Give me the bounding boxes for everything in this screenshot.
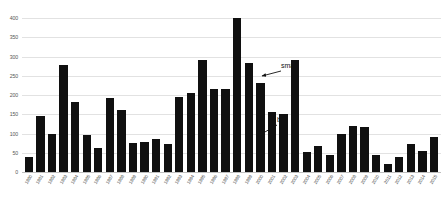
bar (48, 134, 56, 173)
bar-slot (35, 18, 47, 172)
x-slot: 2001 (266, 173, 278, 199)
bar (175, 97, 183, 172)
bar (372, 155, 380, 172)
x-axis-tick-label: 1989 (128, 174, 137, 185)
x-slot: 2011 (382, 173, 394, 199)
x-slot: 1994 (185, 173, 197, 199)
bar-slot (116, 18, 128, 172)
y-axis-tick-label: 200 (10, 92, 18, 98)
bar (395, 157, 403, 172)
y-axis-tick-label: 0 (15, 169, 18, 175)
y-axis-tick-label: 100 (10, 131, 18, 137)
bar-slot (139, 18, 151, 172)
bar-slot (69, 18, 81, 172)
bar-slot (428, 18, 440, 172)
bar (303, 152, 311, 172)
bar-slot (266, 18, 278, 172)
bar-slot (81, 18, 93, 172)
bar (360, 127, 368, 172)
x-axis-tick-label: 2013 (406, 174, 415, 185)
bar (326, 155, 334, 172)
x-slot: 2014 (417, 173, 429, 199)
y-axis: 050100150200250300350400 (0, 0, 22, 199)
x-slot: 1988 (116, 173, 128, 199)
bar-slot (162, 18, 174, 172)
x-slot: 2005 (312, 173, 324, 199)
x-axis-tick-label: 1985 (81, 174, 90, 185)
bar-slot (46, 18, 58, 172)
bar-slot (23, 18, 35, 172)
x-axis-tick-label: 1988 (116, 174, 125, 185)
x-slot: 1980 (23, 173, 35, 199)
x-axis-tick-label: 2010 (371, 174, 380, 185)
x-axis-tick-label: 1999 (244, 174, 253, 185)
bar-slot (359, 18, 371, 172)
x-slot: 1998 (231, 173, 243, 199)
bar-slot (197, 18, 209, 172)
bar-slot (405, 18, 417, 172)
bar (106, 98, 114, 172)
bar-slot (347, 18, 359, 172)
bar (314, 146, 322, 172)
bar-slot (208, 18, 220, 172)
bar (418, 151, 426, 172)
x-axis-tick-label: 1998 (232, 174, 241, 185)
bar (164, 144, 172, 172)
x-slot: 1981 (35, 173, 47, 199)
x-slot: 1982 (46, 173, 58, 199)
x-axis-tick-label: 2002 (278, 174, 287, 185)
bar-slot (301, 18, 313, 172)
y-axis-tick-label: 400 (10, 15, 18, 21)
bar (129, 143, 137, 172)
x-axis-tick-label: 2000 (255, 174, 264, 185)
x-slot: 2003 (289, 173, 301, 199)
bar (94, 148, 102, 172)
x-axis-tick-label: 2008 (348, 174, 357, 185)
bar (337, 134, 345, 173)
bar (83, 135, 91, 172)
bar-slot (58, 18, 70, 172)
bar (198, 60, 206, 172)
x-slot: 2013 (405, 173, 417, 199)
bar-slot (127, 18, 139, 172)
x-slot: 2007 (336, 173, 348, 199)
x-slot: 1990 (139, 173, 151, 199)
x-axis-tick-label: 1991 (151, 174, 160, 185)
bar (36, 116, 44, 172)
x-slot: 2004 (301, 173, 313, 199)
x-slot: 1991 (150, 173, 162, 199)
bar-slot (370, 18, 382, 172)
x-axis-tick-label: 1983 (58, 174, 67, 185)
x-axis-tick-label: 2006 (325, 174, 334, 185)
bar-slot (255, 18, 267, 172)
x-axis-tick-label: 2011 (383, 174, 392, 185)
x-axis-tick-label: 2001 (267, 174, 276, 185)
bar-series (22, 18, 441, 172)
bar-slot (278, 18, 290, 172)
x-slot: 2008 (347, 173, 359, 199)
bar (25, 157, 33, 172)
bar (117, 110, 125, 172)
x-axis-tick-label: 2004 (301, 174, 310, 185)
annotation-label-big: big (277, 116, 286, 123)
y-axis-tick-label: 150 (10, 111, 18, 117)
y-axis-tick-label: 250 (10, 73, 18, 79)
plot-area (22, 18, 441, 172)
bar-slot (220, 18, 232, 172)
x-axis-tick-label: 1997 (220, 174, 229, 185)
x-slot: 1992 (162, 173, 174, 199)
y-axis-tick-label: 350 (10, 34, 18, 40)
bar (187, 93, 195, 172)
x-slot: 1999 (243, 173, 255, 199)
bar-slot (174, 18, 186, 172)
x-axis-tick-label: 2012 (394, 174, 403, 185)
x-axis-tick-label: 1995 (197, 174, 206, 185)
bar-slot (417, 18, 429, 172)
x-axis-tick-label: 2007 (336, 174, 345, 185)
bar-slot (382, 18, 394, 172)
bar-slot (104, 18, 116, 172)
x-slot: 1997 (220, 173, 232, 199)
x-slot: 1996 (208, 173, 220, 199)
annotation-label-small: small (281, 62, 297, 69)
x-axis-tick-label: 2014 (417, 174, 426, 185)
